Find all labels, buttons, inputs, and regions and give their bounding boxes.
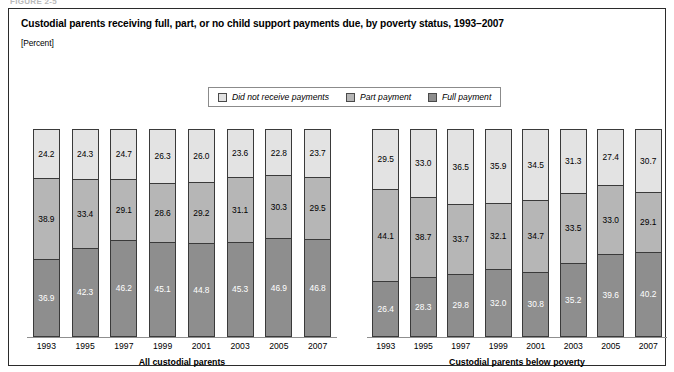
bar-slot: 27.433.039.6	[592, 129, 630, 337]
group-label-custodial-parents-below-poverty: Custodial parents below poverty	[367, 357, 667, 367]
legend-swatch-icon	[346, 93, 355, 102]
legend-swatch-icon	[218, 93, 227, 102]
x-axis-tick-label: 2001	[182, 341, 221, 355]
bar-segment-value-label: 33.0	[410, 129, 437, 198]
x-axis-tick-label: 1997	[105, 341, 144, 355]
bar-slot: 23.729.546.8	[298, 129, 337, 337]
bar-segment-value-label: 24.2	[33, 129, 60, 179]
bar-segment-value-label: 26.4	[372, 282, 399, 337]
bar-segment-value-label: 23.7	[304, 129, 331, 178]
bar-segment-value-label: 24.3	[72, 129, 99, 180]
group-label-all-custodial-parents: All custodial parents	[27, 357, 337, 367]
bar-segment-value-label: 39.6	[597, 255, 624, 337]
chart-legend: Did not receive payments Part payment Fu…	[208, 87, 501, 107]
bar-slot: 22.830.346.9	[260, 129, 299, 337]
stacked-bar: 29.544.126.4	[372, 129, 399, 337]
bar-segment-value-label: 36.9	[33, 260, 60, 337]
x-axis-tick-label: 1997	[442, 341, 480, 355]
bar-group-custodial-parents-below-poverty: 29.544.126.433.038.728.336.533.729.835.9…	[367, 129, 667, 337]
bar-group-all-custodial-parents: 24.238.936.924.333.442.324.729.146.226.3…	[27, 129, 337, 337]
x-axis-tick-label: 1993	[27, 341, 66, 355]
x-axis-tick-label: 2007	[630, 341, 668, 355]
bar-segment-value-label: 46.8	[304, 240, 331, 337]
bar-segment-value-label: 36.5	[447, 129, 474, 205]
bar-segment-value-label: 33.4	[72, 180, 99, 249]
bar-segment-value-label: 33.5	[560, 194, 587, 264]
figure-root: FIGURE 2-5 Custodial parents receiving f…	[0, 0, 674, 372]
x-axis-tick-label: 1993	[367, 341, 405, 355]
bar-segment-value-label: 35.9	[485, 129, 512, 204]
x-axis-tick-label: 2003	[221, 341, 260, 355]
bar-slot: 24.333.442.3	[66, 129, 105, 337]
bar-segment-value-label: 44.1	[372, 190, 399, 282]
bar-slot: 24.729.146.2	[105, 129, 144, 337]
bar-segment-value-label: 38.7	[410, 198, 437, 278]
stacked-bar: 26.328.645.1	[149, 129, 176, 337]
x-axis-tick-label: 2007	[298, 341, 337, 355]
bar-slot: 30.729.140.2	[630, 129, 668, 337]
bar-segment-value-label: 32.1	[485, 204, 512, 271]
bar-segment-value-label: 30.7	[635, 129, 662, 193]
bar-segment-value-label: 40.2	[635, 253, 662, 337]
bar-segment-value-label: 45.3	[227, 243, 254, 337]
bar-segment-value-label: 29.1	[110, 180, 137, 241]
x-axis-tick-label: 2003	[555, 341, 593, 355]
stacked-bar: 36.533.729.8	[447, 129, 474, 337]
bar-segment-value-label: 33.0	[597, 186, 624, 255]
bar-segment-value-label: 29.1	[635, 193, 662, 254]
bar-segment-value-label: 31.3	[560, 129, 587, 194]
bar-slot: 23.631.145.3	[221, 129, 260, 337]
bar-segment-value-label: 30.8	[522, 273, 549, 337]
bar-segment-value-label: 32.0	[485, 270, 512, 337]
stacked-bar: 34.534.730.8	[522, 129, 549, 337]
bar-slot: 31.333.535.2	[555, 129, 593, 337]
bar-segment-value-label: 26.0	[188, 129, 215, 183]
stacked-bar: 24.333.442.3	[72, 129, 99, 337]
legend-entry-full-payment: Full payment	[428, 92, 491, 102]
bar-slot: 36.533.729.8	[442, 129, 480, 337]
bar-segment-value-label: 23.6	[227, 129, 254, 178]
stacked-bar: 35.932.132.0	[485, 129, 512, 337]
bar-slot: 24.238.936.9	[27, 129, 66, 337]
legend-entry-part-payment: Part payment	[346, 92, 411, 102]
bar-segment-value-label: 34.7	[522, 201, 549, 273]
bar-segment-value-label: 30.3	[265, 176, 292, 239]
legend-swatch-icon	[428, 93, 437, 102]
legend-entry-did-not-receive-payments: Did not receive payments	[218, 92, 329, 102]
plot-area-all-custodial-parents: 24.238.936.924.333.442.324.729.146.226.3…	[27, 129, 337, 337]
stacked-bar: 26.029.244.8	[188, 129, 215, 337]
bar-segment-value-label: 26.3	[149, 129, 176, 184]
x-axis-tick-label: 1995	[405, 341, 443, 355]
bar-segment-value-label: 34.5	[522, 129, 549, 201]
bar-segment-value-label: 46.9	[265, 239, 292, 337]
x-axis-tick-label: 1999	[143, 341, 182, 355]
stacked-bar: 23.729.546.8	[304, 129, 331, 337]
x-axis-tick-labels-right: 19931995199719992001200320052007	[367, 341, 667, 355]
bar-segment-value-label: 35.2	[560, 264, 587, 337]
bar-segment-value-label: 38.9	[33, 179, 60, 260]
plot-area-custodial-parents-below-poverty: 29.544.126.433.038.728.336.533.729.835.9…	[367, 129, 667, 337]
bar-segment-value-label: 27.4	[597, 129, 624, 186]
bar-segment-value-label: 29.5	[372, 129, 399, 190]
x-axis-tick-label: 2005	[260, 341, 299, 355]
stacked-bar: 27.433.039.6	[597, 129, 624, 337]
bar-segment-value-label: 28.6	[149, 184, 176, 243]
bar-slot: 34.534.730.8	[517, 129, 555, 337]
bar-segment-value-label: 33.7	[447, 205, 474, 275]
stacked-bar: 31.333.535.2	[560, 129, 587, 337]
legend-label: Part payment	[360, 92, 411, 102]
stacked-bar: 24.238.936.9	[33, 129, 60, 337]
bar-segment-value-label: 24.7	[110, 129, 137, 180]
x-axis-line	[27, 337, 337, 338]
figure-number-label: FIGURE 2-5	[10, 0, 57, 4]
x-axis-tick-label: 1999	[480, 341, 518, 355]
bar-segment-value-label: 29.8	[447, 275, 474, 337]
stacked-bar: 22.830.346.9	[265, 129, 292, 337]
x-axis-tick-label: 1995	[66, 341, 105, 355]
bar-slot: 26.029.244.8	[182, 129, 221, 337]
bar-segment-value-label: 44.8	[188, 244, 215, 337]
bar-segment-value-label: 28.3	[410, 278, 437, 337]
bar-segment-value-label: 45.1	[149, 243, 176, 337]
bar-segment-value-label: 29.5	[304, 178, 331, 239]
bar-slot: 35.932.132.0	[480, 129, 518, 337]
